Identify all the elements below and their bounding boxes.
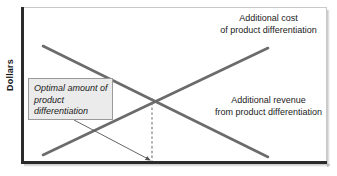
label-additional-revenue: Additional revenuefrom product different… (202, 95, 335, 118)
callout-leader-arrow (74, 120, 150, 160)
figure-canvas: Dollars Additional costof product differ… (0, 0, 337, 176)
callout-optimal-amount-text: Optimal amount of product differentiatio… (34, 83, 108, 118)
callout-optimal-amount: Optimal amount of product differentiatio… (28, 78, 113, 120)
label-additional-cost: Additional costof product differentiatio… (202, 13, 335, 36)
